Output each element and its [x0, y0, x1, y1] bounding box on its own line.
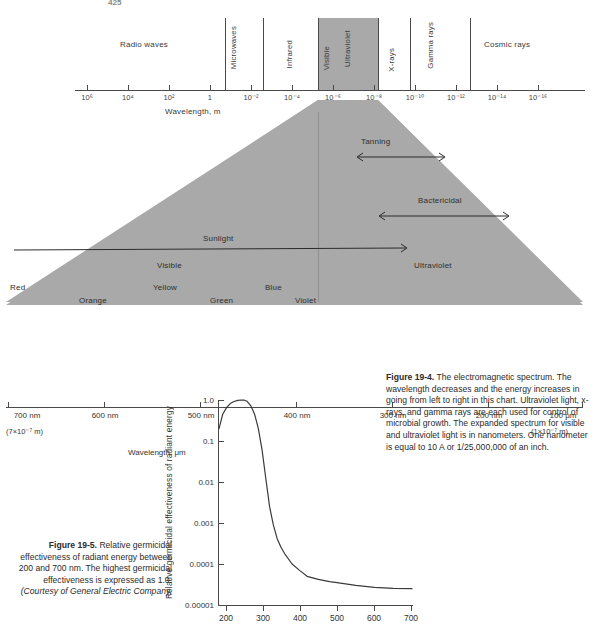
em-band-label-radio-waves: Radio waves: [120, 40, 168, 49]
figure-19-5-courtesy: (Courtesy of General Electric Company,: [21, 586, 172, 596]
em-band-label-infrared: Infrared: [285, 40, 294, 68]
em-band-label-microwaves: Microwaves: [229, 26, 238, 69]
em-band-divider: [318, 18, 319, 90]
expanded-tick-label: 600 nm: [92, 411, 119, 420]
em-axis-tick: [538, 85, 539, 90]
germicidal-effectiveness-chart: 1.0 0.1 0.01 0.001 0.0001 0.00001 200 30…: [178, 392, 418, 625]
color-label-green: Green: [210, 296, 233, 305]
em-axis-tick: [128, 85, 129, 90]
em-axis-tick: [210, 85, 211, 90]
figure-19-4-number: Figure 19-4.: [386, 372, 434, 382]
color-label-red: Red: [10, 283, 25, 292]
em-band-label-visible: Visible: [322, 46, 331, 70]
em-band-divider: [410, 18, 411, 90]
bactericidal-arrow-label: Bactericidal: [418, 196, 462, 205]
em-band-label-gamma-rays: Gamma rays: [426, 22, 435, 69]
expanded-spectrum-chart: Tanning Bactericidal Sunlight Visible Ul…: [0, 100, 601, 330]
em-axis-tick: [333, 85, 334, 90]
color-label-blue: Blue: [265, 283, 282, 292]
color-label-orange: Orange: [79, 296, 107, 305]
bactericidal-arrow: [374, 210, 516, 222]
em-axis-tick: [87, 85, 88, 90]
em-axis-tick: [497, 85, 498, 90]
color-label-violet: Violet: [295, 296, 316, 305]
em-band-divider: [470, 18, 471, 90]
germ-y-axis-title: Relative germicidal effectiveness of rad…: [165, 406, 174, 599]
region-label-visible: Visible: [157, 261, 182, 270]
em-axis-tick: [169, 85, 170, 90]
visible-uv-boundary-line: [318, 112, 319, 302]
spectrum-fan-shape: [0, 100, 601, 315]
expanded-tick-label: 700 nm: [14, 411, 41, 420]
figure-19-5-caption: Figure 19-5. Relative germicidal effecti…: [12, 540, 172, 598]
tanning-arrow-label: Tanning: [361, 137, 390, 146]
tanning-arrow: [352, 151, 452, 163]
em-axis-tick: [374, 85, 375, 90]
em-band-divider: [263, 18, 264, 90]
em-axis-tick: [456, 85, 457, 90]
em-band-divider: [225, 18, 226, 90]
em-axis-tick: [415, 85, 416, 90]
expanded-axis-tick: [104, 402, 105, 407]
figure-page: 425 10⁶ 10⁴ 10² 1 10⁻² 10⁻⁴ 10⁻⁶: [0, 0, 601, 625]
figure-19-5-number: Figure 19-5.: [49, 540, 97, 550]
em-band-label-x-rays: X-rays: [387, 48, 396, 72]
em-band-divider: [378, 18, 379, 90]
color-label-yellow: Yellow: [153, 283, 177, 292]
em-band-label-ultraviolet: Ultraviolet: [343, 30, 352, 67]
region-label-ultraviolet: Ultraviolet: [414, 261, 452, 270]
germicidal-curve: [178, 392, 418, 625]
em-axis-tick: [292, 85, 293, 90]
em-band-label-cosmic-rays: Cosmic rays: [484, 40, 530, 49]
em-axis-tick: [251, 85, 252, 90]
em-axis-line: [75, 90, 585, 91]
expanded-axis-tick: [8, 402, 9, 407]
sunlight-arrow: [14, 242, 414, 256]
expanded-sublabel-left: (7×10⁻⁷ m): [6, 427, 43, 436]
